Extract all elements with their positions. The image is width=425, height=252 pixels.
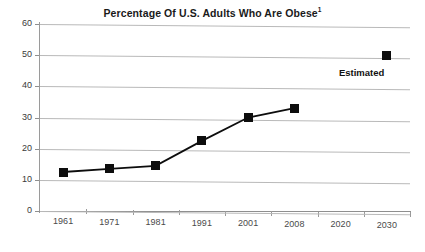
data-point-2030 (382, 51, 391, 60)
obesity-line-chart: Percentage Of U.S. Adults Who Are Obese1… (0, 0, 425, 252)
data-point-2001 (244, 113, 253, 122)
series-line (0, 0, 425, 252)
data-point-1991 (197, 136, 206, 145)
data-point-2008 (290, 104, 299, 113)
series-polyline (63, 108, 294, 172)
data-point-1981 (151, 161, 160, 170)
estimated-annotation: Estimated (339, 67, 384, 78)
data-point-1971 (105, 164, 114, 173)
data-point-1961 (59, 168, 68, 177)
